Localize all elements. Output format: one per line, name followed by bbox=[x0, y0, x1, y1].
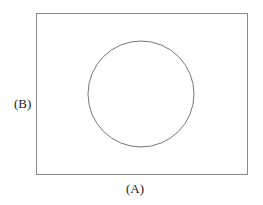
label-a: (A) bbox=[126, 181, 144, 197]
label-b: (B) bbox=[14, 96, 31, 112]
outer-rectangle bbox=[37, 14, 248, 175]
inner-circle bbox=[88, 41, 194, 147]
diagram-canvas bbox=[0, 0, 263, 205]
